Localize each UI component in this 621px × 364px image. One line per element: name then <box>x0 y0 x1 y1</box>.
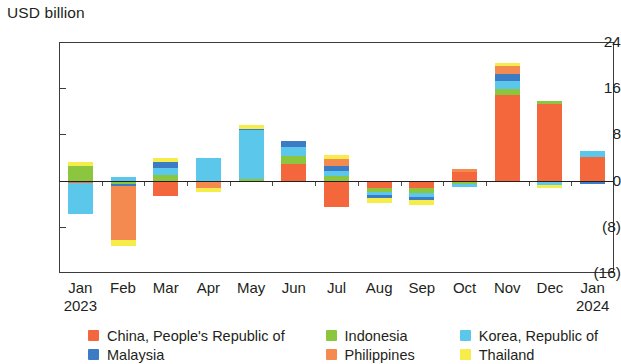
x-axis-year-label: 2023 <box>64 297 97 314</box>
bar-segment <box>324 171 349 176</box>
bar-group[interactable] <box>324 42 349 273</box>
bar-segment <box>495 81 520 89</box>
bar-segment <box>409 200 434 205</box>
legend-color-swatch <box>460 349 471 360</box>
bar-group[interactable] <box>196 42 221 273</box>
x-axis-month-label: May <box>237 279 265 296</box>
bar-segment <box>281 164 306 181</box>
legend-row: China, People's Republic ofIndonesiaKore… <box>88 326 613 345</box>
legend-item[interactable]: Philippines <box>326 347 460 363</box>
bar-segment <box>153 181 178 197</box>
x-axis-month-label: Jun <box>282 279 306 296</box>
x-axis-tick-label: Oct <box>453 279 476 296</box>
bar-segment <box>196 181 221 188</box>
bar-segment <box>324 181 349 208</box>
x-axis-tick-label: Apr <box>197 279 220 296</box>
legend-label: Philippines <box>345 347 415 363</box>
legend-color-swatch <box>326 330 337 341</box>
bar-segment <box>495 89 520 95</box>
bar-group[interactable] <box>367 42 392 273</box>
x-axis-tick-label: Mar <box>153 279 179 296</box>
bar-segment <box>580 151 605 157</box>
bar-segment <box>324 155 349 160</box>
legend-item[interactable]: China, People's Republic of <box>88 328 326 344</box>
bar-group[interactable] <box>111 42 136 273</box>
bar-segment <box>281 147 306 156</box>
bar-segment <box>239 125 264 128</box>
legend-item[interactable]: Thailand <box>460 347 613 363</box>
bar-segment <box>281 141 306 147</box>
legend-row: MalaysiaPhilippinesThailand <box>88 345 613 364</box>
x-axis-tick-label: Aug <box>366 279 393 296</box>
x-axis-tick-label: Dec <box>537 279 564 296</box>
x-axis-month-label: Apr <box>197 279 220 296</box>
bar-segment <box>495 66 520 74</box>
x-axis-month-label: Jan <box>581 279 605 296</box>
bar-segment <box>196 188 221 192</box>
bar-segment <box>153 168 178 176</box>
chart-container: USD billion 241680(8)(16) Jan2023FebMarA… <box>0 0 621 364</box>
x-axis-month-label: Nov <box>494 279 521 296</box>
bar-segment <box>452 184 477 187</box>
bar-group[interactable] <box>537 42 562 273</box>
bars-layer <box>59 42 614 273</box>
chart-legend: China, People's Republic ofIndonesiaKore… <box>88 326 613 364</box>
x-axis-tick-label: Sep <box>409 279 436 296</box>
bar-segment <box>367 198 392 203</box>
bar-segment <box>495 95 520 181</box>
legend-color-swatch <box>326 349 337 360</box>
x-axis-month-label: Feb <box>110 279 136 296</box>
x-axis-tick-label: May <box>237 279 265 296</box>
bar-segment <box>324 166 349 171</box>
bar-segment <box>111 240 136 246</box>
x-axis-tick-label: Jan2024 <box>576 279 609 314</box>
x-axis-month-label: Mar <box>153 279 179 296</box>
legend-label: China, People's Republic of <box>107 328 285 344</box>
bar-segment <box>495 63 520 66</box>
bar-segment <box>239 130 264 179</box>
legend-item[interactable]: Indonesia <box>326 328 460 344</box>
legend-color-swatch <box>88 330 99 341</box>
y-axis-title: USD billion <box>7 4 85 22</box>
bar-segment <box>580 157 605 181</box>
legend-color-swatch <box>88 349 99 360</box>
legend-item[interactable]: Malaysia <box>88 347 326 363</box>
legend-item[interactable]: Korea, Republic of <box>460 328 613 344</box>
bar-group[interactable] <box>409 42 434 273</box>
legend-label: Indonesia <box>345 328 408 344</box>
bar-segment <box>68 183 93 214</box>
bar-group[interactable] <box>495 42 520 273</box>
legend-label: Thailand <box>479 347 535 363</box>
bar-group[interactable] <box>281 42 306 273</box>
bar-segment <box>409 181 434 189</box>
x-axis-year-label: 2024 <box>576 297 609 314</box>
bar-segment <box>495 74 520 81</box>
x-axis-month-label: Aug <box>366 279 393 296</box>
legend-label: Malaysia <box>107 347 164 363</box>
bar-group[interactable] <box>153 42 178 273</box>
legend-label: Korea, Republic of <box>479 328 598 344</box>
x-axis-tick-label: Nov <box>494 279 521 296</box>
x-axis-month-label: Jan <box>68 279 92 296</box>
bar-segment <box>68 162 93 166</box>
bar-segment <box>452 169 477 172</box>
x-axis-tick-label: Jan2023 <box>64 279 97 314</box>
x-axis-month-label: Jul <box>327 279 346 296</box>
bar-segment <box>196 158 221 181</box>
bar-group[interactable] <box>580 42 605 273</box>
legend-color-swatch <box>460 330 471 341</box>
bar-segment <box>537 185 562 187</box>
bar-segment <box>537 101 562 104</box>
bar-segment <box>324 159 349 165</box>
bar-segment <box>239 129 264 131</box>
x-axis-month-label: Dec <box>537 279 564 296</box>
bar-segment <box>281 156 306 164</box>
bar-group[interactable] <box>452 42 477 273</box>
x-axis-month-label: Sep <box>409 279 436 296</box>
bar-segment <box>452 172 477 181</box>
bar-group[interactable] <box>68 42 93 273</box>
x-axis-tick-label: Feb <box>110 279 136 296</box>
bar-group[interactable] <box>239 42 264 273</box>
zero-baseline <box>59 181 614 182</box>
bar-segment <box>153 158 178 161</box>
